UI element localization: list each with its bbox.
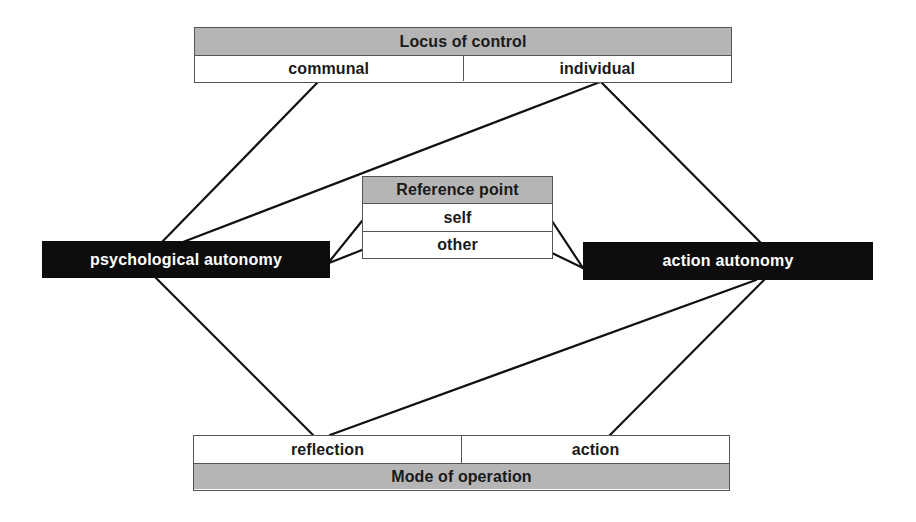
option-other: other [363, 231, 552, 258]
autonomy-diagram: Locus of control communal individual Ref… [0, 0, 916, 522]
option-individual: individual [463, 56, 732, 81]
action-autonomy-node: action autonomy [583, 242, 873, 280]
line-individual-action [601, 82, 761, 243]
option-action: action [461, 436, 729, 463]
line-communal-psychological [162, 82, 318, 242]
option-self: self [363, 203, 552, 231]
reference-point-box: Reference point self other [362, 176, 553, 259]
locus-of-control-box: Locus of control communal individual [194, 27, 732, 83]
locus-of-control-options: communal individual [195, 55, 731, 81]
mode-of-operation-box: reflection action Mode of operation [193, 435, 730, 491]
option-communal: communal [195, 56, 463, 81]
locus-of-control-title: Locus of control [195, 28, 731, 55]
option-reflection: reflection [194, 436, 461, 463]
mode-of-operation-options: reflection action [194, 436, 729, 463]
line-psychological-reflection [155, 277, 313, 435]
psychological-autonomy-node: psychological autonomy [42, 241, 330, 278]
line-action-action [610, 280, 764, 435]
mode-of-operation-title: Mode of operation [194, 463, 729, 489]
reference-point-title: Reference point [363, 177, 552, 203]
line-action-reflection [330, 280, 756, 435]
